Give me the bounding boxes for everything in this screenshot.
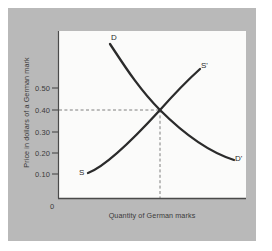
y-axis-title: Price in dollars of a German mark	[22, 54, 31, 172]
supply-curve-label-top: S'	[201, 61, 208, 70]
demand-curve-label-bottom: D'	[235, 154, 242, 163]
origin-label: 0	[50, 202, 54, 211]
supply-curve	[88, 69, 200, 173]
chart-figure: 0.50 0.40 0.30 0.20 0.10 0 D D' S' S Pri…	[0, 0, 272, 251]
demand-curve-label-top: D	[111, 33, 117, 42]
x-axis-title: Quantity of German marks	[58, 211, 246, 220]
supply-curve-label-bottom: S	[79, 168, 84, 177]
